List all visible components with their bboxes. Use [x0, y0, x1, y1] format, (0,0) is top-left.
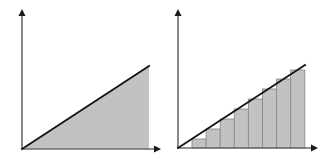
riemann-approximation-svg	[163, 0, 327, 166]
x-axis-arrowhead	[154, 146, 161, 153]
riemann-bar	[277, 79, 291, 148]
riemann-bar	[263, 89, 277, 148]
riemann-bar	[206, 129, 220, 148]
y-axis-arrowhead	[175, 9, 182, 16]
x-axis-arrowhead	[311, 145, 318, 152]
riemann-bar	[220, 119, 234, 148]
riemann-bar	[291, 70, 305, 148]
riemann-bar	[234, 109, 248, 148]
riemann-approximation-panel	[163, 0, 327, 166]
exact-area-svg	[0, 0, 164, 166]
y-axis-arrowhead	[19, 9, 26, 16]
riemann-sum-figure	[0, 0, 327, 166]
riemann-bar	[248, 99, 262, 148]
riemann-bar	[192, 139, 206, 148]
exact-area-panel	[0, 0, 164, 166]
